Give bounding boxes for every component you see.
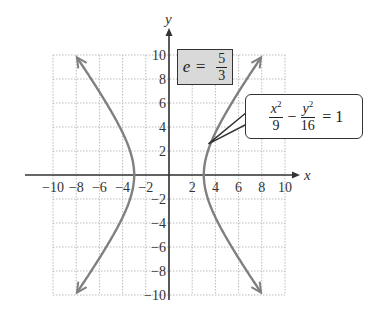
y-tick-label: 4 <box>159 120 166 135</box>
x-tick-label: 8 <box>258 180 265 195</box>
x-exp: 2 <box>277 99 282 109</box>
y-axis-label: y <box>163 11 172 27</box>
x-tick-label: −4 <box>115 180 130 195</box>
y-exp: 2 <box>309 99 314 109</box>
minus-sign: − <box>287 108 296 126</box>
x-tick-label: 10 <box>278 180 292 195</box>
y-tick-label: −10 <box>144 288 166 303</box>
y-tick-label: 2 <box>159 144 166 159</box>
y-den: 16 <box>301 118 315 133</box>
x-axis-label: x <box>303 167 311 183</box>
y-tick-label: 6 <box>159 96 166 111</box>
y-tick-label: −8 <box>151 264 166 279</box>
eccentricity-var: e = <box>183 57 206 77</box>
x-tick-label: 2 <box>189 180 196 195</box>
ecc-denominator: 3 <box>218 68 225 83</box>
x-term: x2 9 <box>269 100 284 133</box>
axes: xy <box>25 11 311 300</box>
eccentricity-fraction: 5 3 <box>216 52 227 83</box>
x-tick-label: −6 <box>92 180 107 195</box>
equation-rhs: = 1 <box>322 108 343 126</box>
ecc-numerator: 5 <box>216 52 227 68</box>
y-tick-label: 10 <box>152 48 166 63</box>
y-tick-label: −4 <box>151 216 166 231</box>
x-tick-label: −10 <box>42 180 64 195</box>
y-tick-label: 8 <box>159 72 166 87</box>
x-den: 9 <box>273 118 280 133</box>
x-tick-label: 6 <box>235 180 242 195</box>
hyperbola-plot: xy −10−8−6−4−2246810−10−8−6−4−2246810 <box>0 0 371 314</box>
y-tick-label: −2 <box>151 192 166 207</box>
equation-callout: x2 9 − y2 16 = 1 <box>245 94 363 139</box>
x-tick-label: −8 <box>69 180 84 195</box>
y-tick-label: −6 <box>151 240 166 255</box>
y-term: y2 16 <box>301 100 316 133</box>
callout-pointer-shape <box>208 112 247 144</box>
eccentricity-label: e = 5 3 <box>177 49 233 85</box>
x-tick-label: 4 <box>212 180 219 195</box>
callout-pointer <box>208 112 247 144</box>
